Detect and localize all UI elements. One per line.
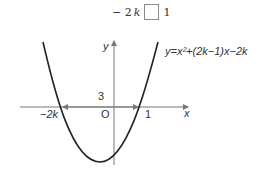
left-root-label: −2k (40, 108, 59, 120)
x-axis-label: x (183, 107, 190, 119)
y-axis-label: y (102, 40, 110, 52)
parabola-curve (43, 42, 158, 162)
origin-label: O (101, 108, 110, 120)
parabola-graph: y x O 3 −2k 1 y=x²+(2k−1)x−2k (0, 0, 277, 177)
distance-label: 3 (98, 90, 104, 102)
right-root-label: 1 (145, 108, 151, 120)
equation-label: y=x²+(2k−1)x−2k (164, 45, 248, 57)
